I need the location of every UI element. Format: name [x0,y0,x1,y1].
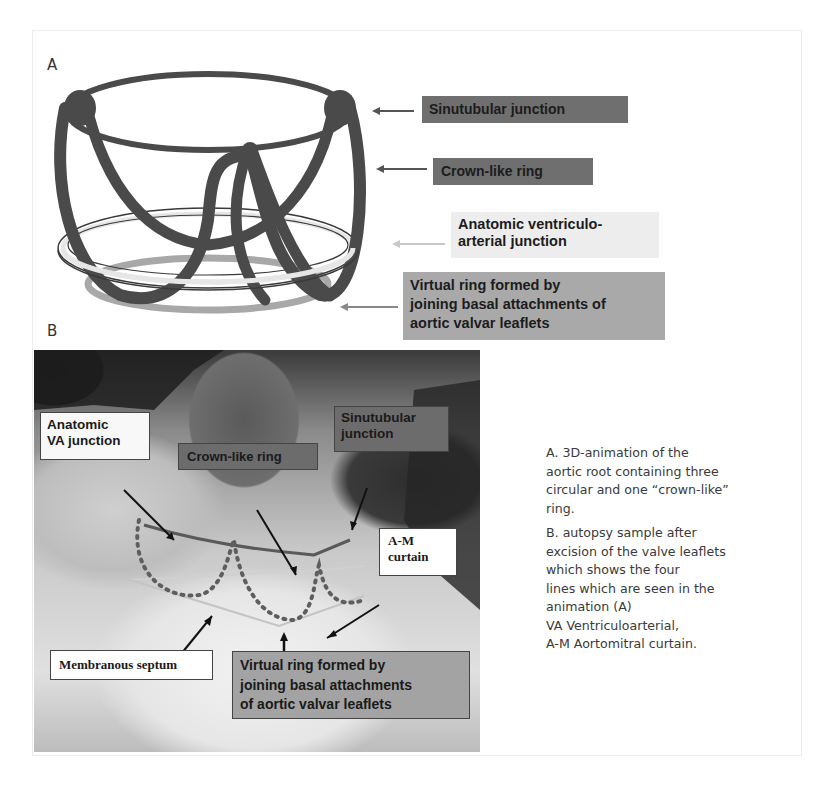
photo-label-anatomic-va-junction: Anatomic VA junction [40,412,150,460]
caption-line: B. autopsy sample after [546,524,796,543]
label-sinutubular-junction: Sinutubular junction [422,96,628,123]
photo-label-crown-like-ring: Crown-like ring [178,443,318,470]
label-line: Anatomic [47,417,143,433]
label-line: VA junction [47,433,143,449]
arrow-virtual-line [348,306,398,308]
arrow-crown-icon [376,165,384,173]
arrow-virtual-icon [340,303,348,311]
label-line: joining basal attachments [240,676,462,696]
label-crown-like-ring: Crown-like ring [433,158,593,185]
autopsy-photo: Anatomic VA junction Crown-like ring Sin… [34,350,480,752]
photo-label-sinutubular-junction: Sinutubular junction [334,406,449,452]
caption-line: VA Ventriculoarterial, [546,617,796,636]
label-line: Virtual ring formed by [240,656,462,676]
label-line: Anatomic ventriculo- [458,216,652,233]
figure-caption: A. 3D-animation of the aortic root conta… [546,444,796,660]
label-line: junction [341,426,442,442]
label-anatomic-va-junction: Anatomic ventriculo- arterial junction [451,212,659,258]
arrow-sinutubular-icon [372,107,380,115]
arrow-anatomic-line [400,243,445,245]
photo-label-virtual-ring: Virtual ring formed by joining basal att… [232,651,470,719]
arrow-crown-line [384,168,427,170]
caption-line: aortic root containing three [546,463,796,482]
panel-b-letter: B [47,322,57,340]
label-line: arterial junction [458,233,652,250]
caption-line: circular and one “crown-like” [546,481,796,500]
caption-line: excision of the valve leaflets [546,543,796,562]
arrow-anatomic-icon [392,240,400,248]
photo-label-am-curtain: A-M curtain [379,528,457,576]
label-line: joining basal attachments of [410,295,658,314]
caption-line: lines which are seen in the [546,580,796,599]
caption-b: B. autopsy sample after excision of the … [546,524,796,654]
label-line: Sinutubular [341,410,442,426]
aortic-root-3d-illustration [30,70,400,320]
label-line: Virtual ring formed by [410,276,658,295]
caption-line: which shows the four [546,561,796,580]
arrow-sinutubular-line [380,110,414,112]
photo-label-membranous-septum: Membranous septum [50,650,213,680]
label-line: A-M [388,533,448,549]
caption-a: A. 3D-animation of the aortic root conta… [546,444,796,518]
caption-line: animation (A) [546,598,796,617]
caption-line: A-M Aortomitral curtain. [546,635,796,654]
label-virtual-ring: Virtual ring formed by joining basal att… [403,272,665,340]
label-line: curtain [388,549,448,565]
label-line: of aortic valvar leaflets [240,695,462,715]
caption-line: A. 3D-animation of the [546,444,796,463]
caption-line: ring. [546,500,796,519]
label-line: aortic valvar leaflets [410,314,658,333]
